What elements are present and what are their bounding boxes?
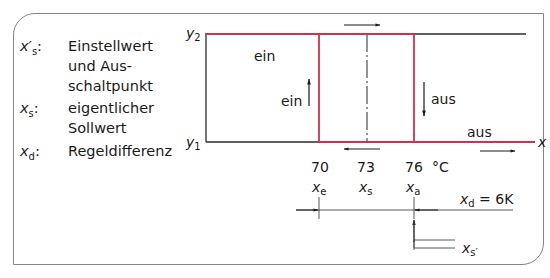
tick-symbol-xa: xa [405, 179, 420, 197]
x-axis-label: x [537, 134, 547, 150]
state-label-off-edge: aus [431, 91, 456, 107]
tick-symbol-xs: xs [358, 179, 373, 197]
difference-label: xd = 6K [459, 191, 514, 209]
hysteresis-diagram: y2 y1 x ein ein aus aus 70 73 76 °C xe x… [0, 0, 550, 278]
tick-value-70: 70 [311, 159, 329, 175]
setpoint-pointer-label: xs′ [461, 240, 479, 258]
y1-label: y1 [185, 134, 201, 152]
tick-symbol-xe: xe [311, 179, 326, 197]
state-label-on-edge: ein [281, 93, 302, 109]
state-label-off-bottom: aus [467, 124, 492, 140]
y2-label: y2 [185, 25, 201, 43]
tick-value-73: 73 [357, 159, 375, 175]
tick-value-76: 76 [405, 159, 423, 175]
setpoint-pointer-line [414, 240, 455, 250]
state-label-on-top: ein [254, 48, 275, 64]
setpoint-pointer-leader [414, 222, 455, 248]
unit-label: °C [432, 159, 449, 175]
